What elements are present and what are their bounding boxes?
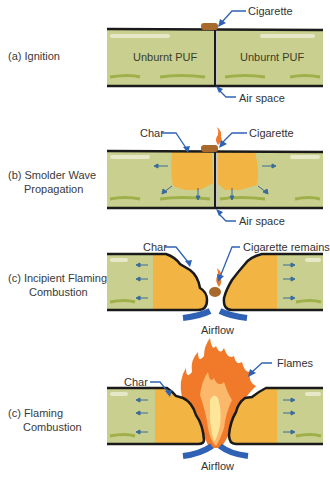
- callout-char-c2: Char: [124, 376, 148, 389]
- airflow-left-arrow: [183, 446, 212, 456]
- smolder-to-flaming-diagram: (a) Ignition Unburnt PUF Unburnt PUF Cig…: [0, 0, 330, 477]
- airflow-right-arrow: [220, 446, 248, 456]
- callout-flames: Flames: [277, 357, 313, 370]
- callout-airflow-c2: Airflow: [201, 460, 234, 473]
- panel-c-flaming-illustration: [0, 0, 330, 477]
